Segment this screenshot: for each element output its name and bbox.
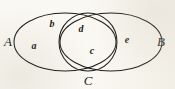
venn-diagram-figure: A B C a b d c e: [0, 0, 175, 89]
set-ellipse-b: [60, 13, 162, 71]
region-label-a: a: [32, 41, 37, 51]
region-label-b: b: [50, 19, 55, 29]
region-label-e: e: [125, 35, 129, 45]
set-label-b: B: [157, 35, 165, 48]
region-label-d: d: [79, 24, 84, 34]
set-ellipse-a: [14, 13, 116, 71]
region-label-c: c: [90, 46, 94, 56]
set-label-a: A: [4, 35, 12, 48]
set-label-c: C: [84, 74, 93, 87]
set-circle-c: [59, 13, 117, 71]
